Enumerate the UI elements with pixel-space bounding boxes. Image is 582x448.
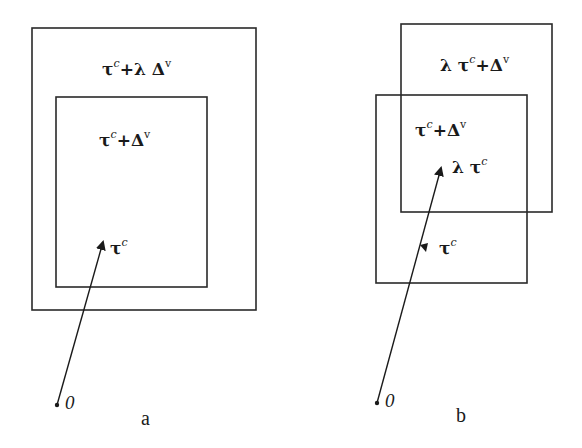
origin-point-a — [55, 403, 59, 407]
scaled-vector-label-b: λ τc — [452, 155, 487, 177]
upper-box-label-b: λ τc+Δv — [440, 53, 510, 75]
figure-a: τc+λ Δv τc+Δv τc 0 a — [32, 28, 256, 429]
vector-arrow-a — [57, 242, 103, 405]
outer-box-label-a: τc+λ Δv — [102, 57, 172, 79]
inner-box-label-a: τc+Δv — [99, 128, 151, 150]
upper-box-b — [401, 24, 552, 212]
inner-box-a — [56, 97, 207, 287]
diagram-canvas: τc+λ Δv τc+Δv τc 0 a λ τc+Δv τc+Δv λ τc … — [0, 0, 582, 448]
caption-b: b — [456, 404, 466, 426]
origin-point-b — [375, 401, 379, 405]
vector-label-a: τc — [110, 236, 128, 258]
scaled-vector-arrow-b — [377, 168, 441, 403]
origin-label-a: 0 — [65, 392, 75, 413]
lower-box-label-b: τc+Δv — [415, 118, 467, 140]
origin-label-b: 0 — [385, 390, 395, 411]
vector-label-b: τc — [439, 236, 457, 258]
vector-tip-marker-b — [420, 243, 428, 252]
caption-a: a — [141, 407, 150, 429]
figure-b: λ τc+Δv τc+Δv λ τc τc 0 b — [375, 24, 552, 426]
